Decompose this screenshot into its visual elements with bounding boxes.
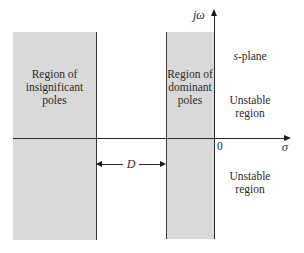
dimension-line-left — [101, 164, 123, 165]
origin-label: 0 — [217, 140, 223, 152]
s-plane-rest: -plane — [238, 50, 267, 62]
unstable-region-upper-label: Unstable region — [220, 94, 280, 120]
insignificant-label-line-2: insignificant — [13, 81, 96, 94]
dimension-d-label: D — [124, 158, 138, 170]
dominant-poles-region — [166, 32, 214, 239]
insignificant-region-boundary-line — [96, 32, 97, 240]
dominant-label-line-1: Region of — [164, 68, 216, 81]
unstable-lower-line-2: region — [220, 183, 280, 196]
dominant-poles-label: Region of dominant poles — [164, 68, 216, 107]
s-plane-label: s-plane — [220, 50, 280, 63]
insignificant-poles-label: Region of insignificant poles — [13, 68, 96, 107]
jw-axis — [214, 14, 215, 239]
jw-axis-label: jω — [193, 9, 205, 21]
dimension-arrow-right-icon — [160, 161, 166, 167]
insignificant-poles-region — [13, 32, 96, 240]
dominant-label-line-3: poles — [164, 94, 216, 107]
unstable-region-lower-label: Unstable region — [220, 170, 280, 196]
jw-axis-arrow-icon — [211, 9, 217, 16]
insignificant-label-line-1: Region of — [13, 68, 96, 81]
dimension-line-right — [139, 164, 160, 165]
unstable-lower-line-1: Unstable — [220, 170, 280, 183]
dominant-region-boundary-line — [166, 32, 167, 239]
sigma-axis-label: σ — [282, 141, 288, 153]
unstable-upper-line-1: Unstable — [220, 94, 280, 107]
unstable-upper-line-2: region — [220, 107, 280, 120]
insignificant-label-line-3: poles — [13, 94, 96, 107]
dominant-label-line-2: dominant — [164, 81, 216, 94]
sigma-axis — [13, 138, 285, 139]
